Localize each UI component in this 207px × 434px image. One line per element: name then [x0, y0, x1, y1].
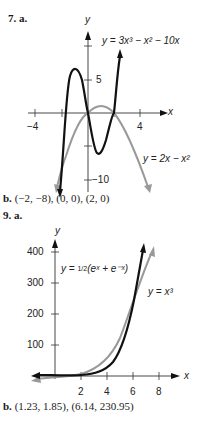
label-suffix: (eˣ + e⁻ˣ) [87, 263, 128, 274]
y-tick-label: 5 [96, 74, 102, 85]
x-tick-label: 2 [78, 386, 84, 397]
x-tick-label: 4 [137, 121, 143, 132]
arrow-icon [31, 376, 41, 383]
label-fraction: 1/2 [77, 265, 87, 272]
x-tick-label: 4 [104, 386, 110, 397]
x-axis-arrow-icon [171, 373, 180, 379]
x-tick-label: 8 [156, 386, 162, 397]
y-tick-label: 400 [27, 246, 44, 257]
problem-number: 9. [3, 209, 11, 221]
y-axis-arrow-icon [85, 31, 91, 40]
curve-cubic [60, 56, 120, 191]
label-prefix: y = [61, 263, 77, 274]
problem-9-number: 9. a. [3, 209, 22, 221]
y-tick-label: 300 [27, 277, 44, 288]
y-axis-label: y [55, 225, 60, 236]
x-axis-label: x [184, 370, 189, 381]
arrow-icon [140, 243, 146, 253]
arrow-icon [149, 246, 155, 257]
arrow-icon [144, 184, 152, 193]
answer-7b: b. (−2, −8), (0, 0), (2, 0) [3, 192, 110, 204]
arrow-icon [117, 49, 123, 58]
part-b-label: b. [3, 192, 12, 204]
x-axis-arrow-icon [160, 110, 168, 116]
y-tick-label: −10 [92, 174, 109, 185]
x-tick-label: −4 [27, 121, 38, 132]
x-tick-label: 6 [130, 386, 136, 397]
curve-label-cubic: y = x³ [148, 286, 173, 297]
answer-text: (−2, −8), (0, 0), (2, 0) [15, 192, 110, 204]
answer-text: (1.23, 1.85), (6.14, 230.95) [15, 400, 134, 412]
answer-9b: b. (1.23, 1.85), (6.14, 230.95) [3, 400, 134, 412]
curve-label-cubic: y = 3x³ − x² − 10x [102, 35, 180, 46]
x-axis-label: x [168, 106, 173, 117]
y-tick-label: 100 [27, 339, 44, 350]
graph-7a [0, 0, 207, 200]
arrow-icon [31, 372, 40, 379]
y-axis-label: y [85, 14, 90, 25]
curve-label-cosh: y = 1/2(eˣ + e⁻ˣ) [61, 263, 128, 274]
part-b-label: b. [3, 400, 12, 412]
part-a-label: a. [14, 209, 22, 221]
y-axis-arrow-icon [52, 239, 58, 248]
curve-label-parabola: y = 2x − x² [143, 153, 190, 164]
y-tick-label: 200 [27, 308, 44, 319]
